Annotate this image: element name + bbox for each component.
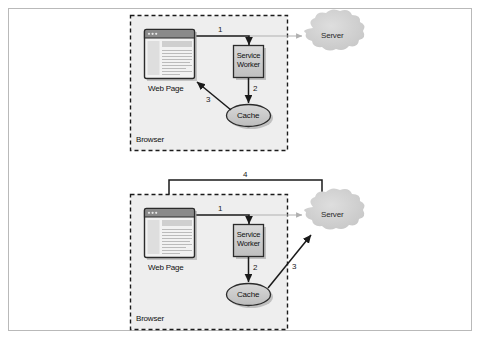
cache-label-bottom: Cache bbox=[237, 290, 259, 299]
arrow-label-3-bottom: 3 bbox=[292, 262, 296, 271]
arrow-label-2-top: 2 bbox=[253, 84, 257, 93]
diagram-bottom-group bbox=[131, 180, 365, 330]
browser-label-top: Browser bbox=[136, 135, 164, 144]
arrow-label-3-top: 3 bbox=[206, 95, 210, 104]
arrow-label-1-bottom: 1 bbox=[218, 204, 222, 213]
server-label-top: Server bbox=[321, 31, 343, 40]
web-page-node-top bbox=[145, 30, 198, 82]
web-page-node-bottom bbox=[145, 209, 198, 261]
service-worker-label-line2-top: Worker bbox=[235, 61, 262, 70]
browser-label-bottom: Browser bbox=[136, 314, 164, 323]
arrow-label-4-bottom: 4 bbox=[243, 170, 247, 179]
arrow-label-2-bottom: 2 bbox=[253, 263, 257, 272]
service-worker-label-line2-bottom: Worker bbox=[235, 240, 262, 249]
figure-root: 1 2 3 Service Worker Cache Server Web Pa… bbox=[0, 0, 482, 341]
server-node-top bbox=[304, 9, 364, 50]
web-page-label-top: Web Page bbox=[148, 84, 184, 93]
server-node-bottom bbox=[304, 188, 364, 229]
server-label-bottom: Server bbox=[321, 210, 343, 219]
arrow-label-1-top: 1 bbox=[218, 25, 222, 34]
cache-label-top: Cache bbox=[237, 111, 259, 120]
web-page-label-bottom: Web Page bbox=[148, 263, 184, 272]
